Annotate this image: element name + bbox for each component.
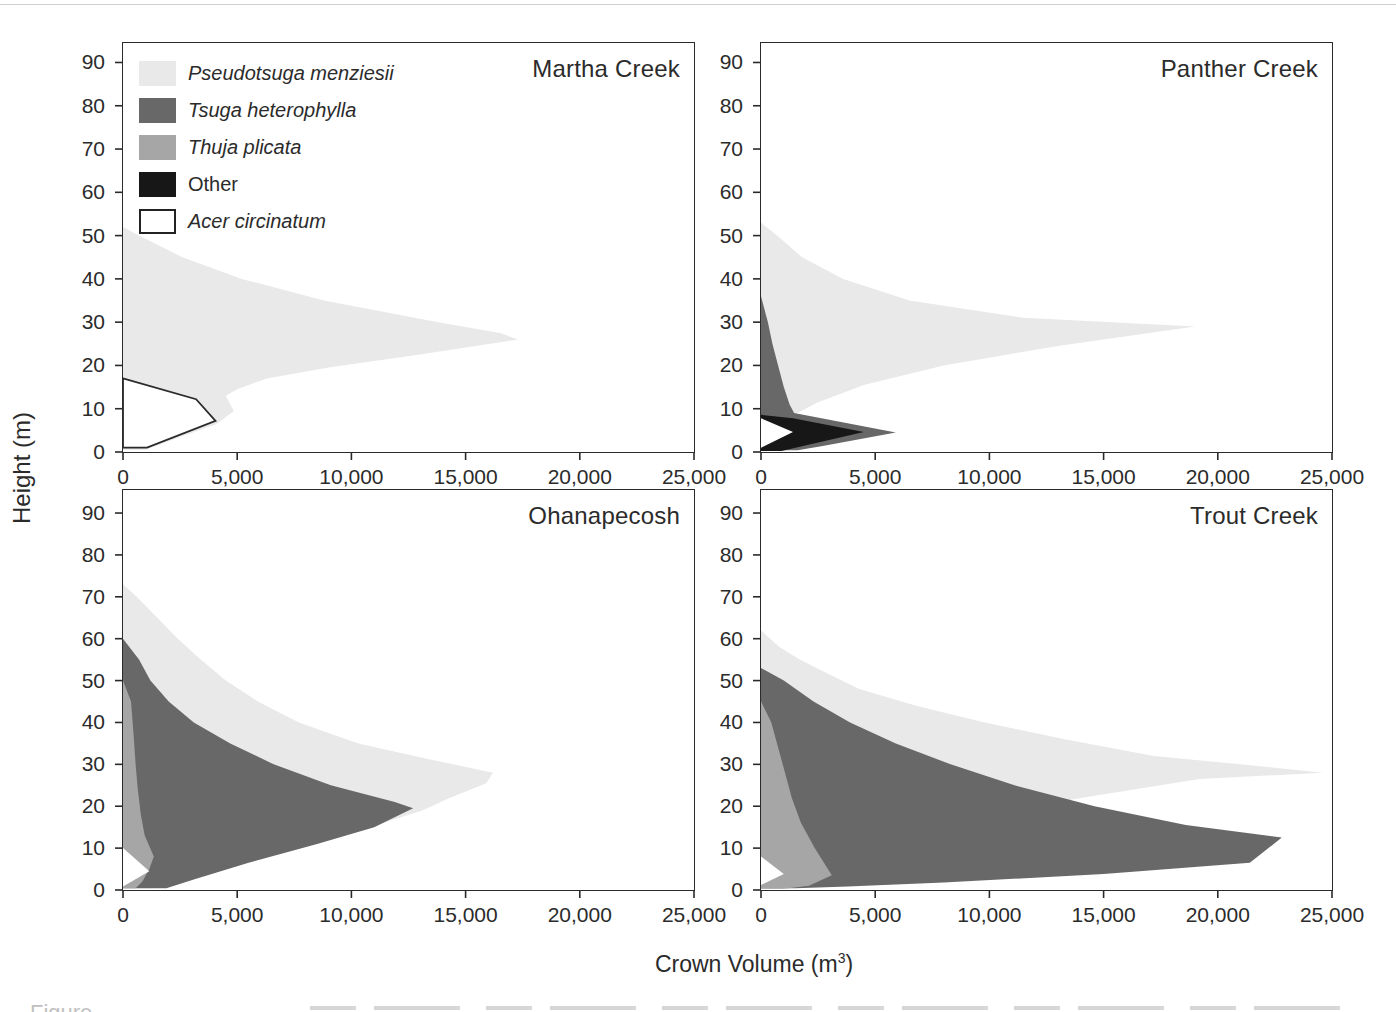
x-tick-label: 20,000 xyxy=(548,465,612,489)
y-tick-label: 90 xyxy=(720,50,753,74)
x-tick-label: 15,000 xyxy=(433,465,497,489)
y-tick-label: 70 xyxy=(82,137,115,161)
y-tick-label: 80 xyxy=(82,94,115,118)
x-tick-label: 20,000 xyxy=(1186,903,1250,927)
y-tick-label: 70 xyxy=(720,137,753,161)
plot-area xyxy=(761,43,1332,452)
y-tick-label: 70 xyxy=(720,585,753,609)
x-tick-label: 5,000 xyxy=(849,465,902,489)
y-tick-label: 40 xyxy=(82,710,115,734)
y-axis-title: Height (m) xyxy=(8,412,36,524)
x-tick-label: 10,000 xyxy=(957,903,1021,927)
scan-artifact-line xyxy=(0,4,1396,5)
thuja-swatch-icon xyxy=(139,135,176,160)
y-tick-label: 60 xyxy=(82,627,115,651)
x-tick-label: 0 xyxy=(117,903,129,927)
y-tick-label: 90 xyxy=(720,501,753,525)
acer-swatch-icon xyxy=(139,209,176,234)
panel-title-trout-creek: Trout Creek xyxy=(1190,502,1318,530)
superscript-3: 3 xyxy=(838,950,846,966)
y-tick-label: 20 xyxy=(82,353,115,377)
y-tick-label: 40 xyxy=(720,267,753,291)
x-tick-label: 10,000 xyxy=(319,903,383,927)
y-tick-label: 90 xyxy=(82,501,115,525)
panel-trout-creek: Trout Creek 05,00010,00015,00020,00025,0… xyxy=(760,489,1333,891)
legend-row-other: Other xyxy=(139,166,394,203)
y-tick-label: 30 xyxy=(720,310,753,334)
plot-area xyxy=(761,490,1332,890)
y-tick-label: 30 xyxy=(82,752,115,776)
y-tick-label: 20 xyxy=(720,353,753,377)
x-tick-label: 25,000 xyxy=(662,903,726,927)
y-tick-label: 30 xyxy=(82,310,115,334)
cropped-caption-smudge xyxy=(310,1006,1350,1010)
panel-title-ohanapecosh: Ohanapecosh xyxy=(528,502,680,530)
x-tick-label: 25,000 xyxy=(662,465,726,489)
y-tick-label: 0 xyxy=(93,878,115,902)
legend-row-tsuga: Tsuga heterophylla xyxy=(139,92,394,129)
y-tick-label: 80 xyxy=(720,543,753,567)
y-tick-label: 50 xyxy=(82,669,115,693)
plot-area xyxy=(123,490,694,890)
y-tick-label: 20 xyxy=(720,794,753,818)
legend-label: Pseudotsuga menziesii xyxy=(188,62,394,85)
legend-label: Thuja plicata xyxy=(188,136,301,159)
pseudotsuga-swatch-icon xyxy=(139,61,176,86)
x-tick-label: 15,000 xyxy=(433,903,497,927)
tsuga-swatch-icon xyxy=(139,98,176,123)
y-tick-label: 50 xyxy=(720,224,753,248)
panel-martha-creek: Martha Creek Pseudotsuga menziesii Tsuga… xyxy=(122,42,695,453)
x-tick-label: 5,000 xyxy=(211,903,264,927)
x-tick-label: 15,000 xyxy=(1071,903,1135,927)
y-tick-label: 50 xyxy=(82,224,115,248)
legend-row-acer: Acer circinatum xyxy=(139,203,394,240)
y-tick-label: 40 xyxy=(82,267,115,291)
y-tick-label: 10 xyxy=(720,397,753,421)
x-tick-label: 25,000 xyxy=(1300,903,1364,927)
x-tick-label: 0 xyxy=(755,465,767,489)
x-tick-label: 10,000 xyxy=(319,465,383,489)
x-tick-label: 10,000 xyxy=(957,465,1021,489)
y-tick-label: 10 xyxy=(720,836,753,860)
y-tick-label: 40 xyxy=(720,710,753,734)
legend-label: Other xyxy=(188,173,238,196)
x-tick-label: 25,000 xyxy=(1300,465,1364,489)
panel-panther-creek: Panther Creek 05,00010,00015,00020,00025… xyxy=(760,42,1333,453)
x-tick-label: 0 xyxy=(117,465,129,489)
y-tick-label: 50 xyxy=(720,669,753,693)
y-tick-label: 60 xyxy=(82,180,115,204)
x-tick-label: 5,000 xyxy=(211,465,264,489)
x-tick-label: 5,000 xyxy=(849,903,902,927)
x-tick-label: 0 xyxy=(755,903,767,927)
legend-row-pseudotsuga: Pseudotsuga menziesii xyxy=(139,55,394,92)
y-tick-label: 60 xyxy=(720,627,753,651)
y-tick-label: 0 xyxy=(93,440,115,464)
legend: Pseudotsuga menziesii Tsuga heterophylla… xyxy=(139,55,394,240)
x-tick-label: 15,000 xyxy=(1071,465,1135,489)
x-axis-title: Crown Volume (m3) xyxy=(655,950,853,978)
legend-row-thuja: Thuja plicata xyxy=(139,129,394,166)
y-tick-label: 70 xyxy=(82,585,115,609)
y-tick-label: 10 xyxy=(82,836,115,860)
y-tick-label: 80 xyxy=(720,94,753,118)
panel-title-martha-creek: Martha Creek xyxy=(532,55,680,83)
panel-ohanapecosh: Ohanapecosh 05,00010,00015,00020,00025,0… xyxy=(122,489,695,891)
y-tick-label: 0 xyxy=(731,878,753,902)
x-tick-label: 20,000 xyxy=(548,903,612,927)
figure-canvas: Martha Creek Pseudotsuga menziesii Tsuga… xyxy=(0,0,1396,1012)
legend-label: Tsuga heterophylla xyxy=(188,99,356,122)
y-tick-label: 80 xyxy=(82,543,115,567)
y-tick-label: 0 xyxy=(731,440,753,464)
x-tick-label: 20,000 xyxy=(1186,465,1250,489)
y-tick-label: 20 xyxy=(82,794,115,818)
y-tick-label: 10 xyxy=(82,397,115,421)
y-tick-label: 90 xyxy=(82,50,115,74)
y-tick-label: 60 xyxy=(720,180,753,204)
y-tick-label: 30 xyxy=(720,752,753,776)
legend-label: Acer circinatum xyxy=(188,210,326,233)
other-swatch-icon xyxy=(139,172,176,197)
panel-title-panther-creek: Panther Creek xyxy=(1161,55,1318,83)
series-pseudotsuga xyxy=(761,223,1195,416)
